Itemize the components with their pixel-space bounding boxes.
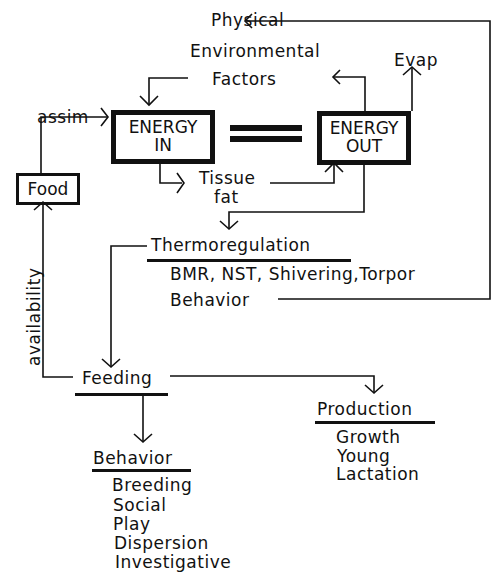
energy-balance-diagram: Physical Environmental Factors Evap assi… xyxy=(0,0,502,579)
food-label: Food xyxy=(28,179,69,199)
factors-label-line1: Physical xyxy=(211,12,284,29)
tissue-to-out-connector xyxy=(270,164,334,183)
behavior-title: Behavior xyxy=(93,450,173,467)
thermoregulation-underline xyxy=(147,259,351,262)
fat-label: fat xyxy=(214,189,239,206)
evap-label: Evap xyxy=(394,52,438,69)
feeding-to-production-connector xyxy=(170,376,374,392)
thermoregulation-item: BMR, NST, Shivering,Torpor xyxy=(170,266,415,283)
production-underline xyxy=(315,421,435,424)
behavior-item: Dispersion xyxy=(114,535,209,552)
thermo-to-feeding-connector xyxy=(111,246,147,366)
assim-label: assim xyxy=(37,109,89,126)
tissue-label: Tissue xyxy=(199,170,256,187)
factors-label-line3: Factors xyxy=(212,71,276,88)
behavior-underline xyxy=(92,469,191,472)
availability-label: availability xyxy=(24,268,44,366)
production-title: Production xyxy=(317,401,412,418)
behavior-item: Play xyxy=(113,516,150,533)
energy-out-line2: OUT xyxy=(346,138,382,156)
feeding-title: Feeding xyxy=(82,370,152,387)
factors-label-line2: Environmental xyxy=(190,43,320,60)
food-box: Food xyxy=(16,173,80,205)
production-item: Lactation xyxy=(336,466,419,483)
behavior-item: Investigative xyxy=(115,554,231,571)
production-item: Young xyxy=(337,448,390,465)
behavior-item: Social xyxy=(113,497,166,514)
thermoregulation-title: Thermoregulation xyxy=(151,237,311,254)
energy-in-line2: IN xyxy=(154,137,172,155)
thermoregulation-item: Behavior xyxy=(170,292,250,309)
behavior-item: Breeding xyxy=(112,477,192,494)
energy-in-box: ENERGY IN xyxy=(111,110,215,164)
feeding-underline xyxy=(75,393,168,396)
equals-sign xyxy=(230,125,302,142)
energy-out-box: ENERGY OUT xyxy=(317,111,411,165)
production-item: Growth xyxy=(336,429,401,446)
feeding-to-food-connector xyxy=(43,203,73,377)
